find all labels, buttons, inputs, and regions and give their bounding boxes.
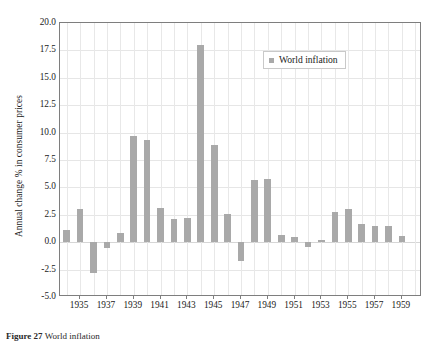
bar (171, 219, 178, 242)
x-tick-mark (267, 296, 268, 299)
y-tick-label: 15.0 (26, 72, 56, 82)
bar (318, 240, 325, 242)
bar (238, 242, 245, 261)
bar (104, 242, 111, 247)
bar (278, 235, 285, 243)
x-tick-mark (133, 296, 134, 299)
x-tick-mark (79, 296, 80, 299)
y-axis-title-text: Annual change % in consumer prices (14, 76, 24, 256)
figure-caption: Figure 27 World inflation (6, 331, 436, 342)
y-tick-label: 5.0 (26, 181, 56, 191)
y-tick-label: 12.5 (26, 99, 56, 109)
x-tick-label: 1959 (381, 300, 421, 311)
legend-swatch-world-inflation (269, 58, 274, 63)
y-tick-label: 7.5 (26, 154, 56, 164)
bar (291, 237, 298, 242)
bar (224, 214, 231, 242)
y-tick-label: -5.0 (26, 291, 56, 301)
chart-legend: World inflation (263, 51, 346, 69)
x-tick-mark (320, 296, 321, 299)
y-tick-label: 2.5 (26, 209, 56, 219)
x-tick-mark (186, 296, 187, 299)
bar (399, 236, 406, 243)
x-tick-mark (347, 296, 348, 299)
bar (211, 145, 218, 243)
bar (130, 136, 137, 242)
y-tick-label: 10.0 (26, 127, 56, 137)
x-tick-mark (401, 296, 402, 299)
y-tick-label: 0.0 (26, 236, 56, 246)
bar (90, 242, 97, 273)
bar (385, 226, 392, 242)
bar-series-world-inflation (60, 23, 420, 295)
bar (77, 209, 84, 242)
y-tick-label: 20.0 (26, 17, 56, 27)
x-axis-tick-labels: 1935193719391941194319451947194919511953… (59, 296, 421, 318)
figure-caption-text: World inflation (45, 331, 100, 341)
y-axis-tick-labels: -5.0-2.50.02.55.07.510.012.515.017.520.0 (26, 16, 56, 302)
bar (372, 226, 379, 242)
bar (358, 224, 365, 243)
figure-world-inflation: Annual change % in consumer prices -5.0-… (0, 0, 442, 344)
bar (144, 140, 151, 242)
bar (117, 233, 124, 242)
x-tick-mark (240, 296, 241, 299)
figure-number: Figure 27 (6, 331, 43, 341)
y-tick-label: 17.5 (26, 44, 56, 54)
y-tick-label: -2.5 (26, 264, 56, 274)
x-tick-mark (106, 296, 107, 299)
bar (184, 218, 191, 242)
bar (63, 230, 70, 242)
x-tick-mark (213, 296, 214, 299)
bar (251, 180, 258, 242)
bar (345, 209, 352, 242)
bar (332, 212, 339, 243)
bar (264, 179, 271, 243)
x-tick-mark (374, 296, 375, 299)
x-tick-mark (160, 296, 161, 299)
bar (305, 242, 312, 246)
legend-label-world-inflation: World inflation (279, 54, 338, 66)
plot-area (59, 22, 421, 296)
x-tick-mark (294, 296, 295, 299)
bar (157, 208, 164, 242)
bar (197, 45, 204, 242)
